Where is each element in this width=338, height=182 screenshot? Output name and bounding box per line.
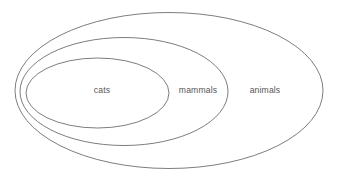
euler-diagram-svg: cats mammals animals — [0, 0, 338, 182]
euler-diagram-canvas: cats mammals animals — [0, 0, 338, 182]
label-mammals: mammals — [179, 85, 217, 95]
label-cats: cats — [94, 85, 110, 95]
label-animals: animals — [250, 85, 281, 95]
